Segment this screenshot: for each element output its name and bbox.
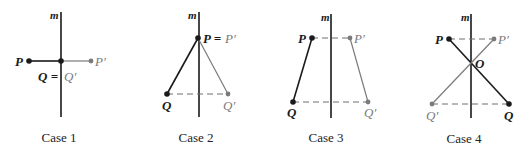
point-label: Q (287, 105, 297, 120)
image-segment (350, 38, 368, 102)
reflection-cases-diagram: mPP′Q =Q′Case 1mQQ′P =P′Case 2mPP′QQ′Cas… (0, 0, 530, 156)
point-p (26, 58, 32, 64)
mirror-line-label: m (188, 9, 197, 21)
mirror-line-label: m (321, 11, 330, 23)
annotation-label: P = (203, 31, 221, 46)
annotation-label: Q = (38, 69, 58, 84)
original-segment (167, 38, 198, 94)
point-q-prime (366, 100, 371, 105)
case-caption: Case 2 (178, 130, 213, 145)
image-segment (198, 38, 228, 94)
mirror-line-label: m (461, 11, 470, 23)
image-segment (432, 39, 494, 104)
point-p-prime (492, 37, 497, 42)
point-q (58, 58, 64, 64)
case-caption: Case 3 (308, 130, 343, 145)
annotation-label: O (475, 56, 485, 71)
case-caption: Case 4 (446, 131, 482, 146)
point-p (309, 35, 315, 41)
annotation-label: Q′ (64, 69, 76, 84)
point-label: P′ (353, 31, 365, 46)
point-label: P′ (94, 54, 106, 69)
point-label: P (435, 32, 444, 47)
case-2-figure: mQQ′P =P′Case 2 (162, 9, 236, 145)
point-label: Q′ (364, 105, 376, 120)
point-p (195, 35, 201, 41)
point-q (506, 101, 512, 107)
original-segment (449, 39, 509, 104)
point-q-prime (430, 102, 435, 107)
point-q-prime (226, 92, 231, 97)
original-segment (293, 38, 312, 102)
point-label: P (298, 31, 307, 46)
annotation-label: P′ (224, 31, 236, 46)
point-label: Q (162, 98, 172, 113)
case-1-figure: mPP′Q =Q′Case 1 (15, 9, 106, 145)
case-4-figure: mPP′QQ′OCase 4 (426, 11, 514, 146)
point-p (446, 36, 452, 42)
point-p-prime (348, 36, 353, 41)
case-3-figure: mPP′QQ′Case 3 (287, 11, 376, 145)
point-label: Q′ (223, 98, 235, 113)
mirror-line-label: m (50, 9, 59, 21)
point-q (290, 99, 296, 105)
point-label: P′ (497, 32, 509, 47)
case-caption: Case 1 (41, 130, 76, 145)
point-label: Q (504, 108, 514, 123)
point-p-prime (89, 59, 94, 64)
point-q (164, 91, 170, 97)
point-label: P (15, 54, 24, 69)
diagram-canvas: mPP′Q =Q′Case 1mQQ′P =P′Case 2mPP′QQ′Cas… (0, 0, 530, 156)
point-label: Q′ (426, 108, 438, 123)
